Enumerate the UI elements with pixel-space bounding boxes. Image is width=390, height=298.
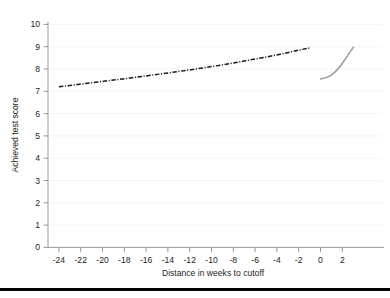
x-tick-label: 0 [318,255,323,265]
x-axis-tick-labels: -24 -22 -20 -18 -16 -14 -12 -10 -8 -6 -4… [53,255,345,265]
y-tick-label: 3 [35,176,40,186]
x-axis-ticks [59,247,342,252]
x-tick-label: -24 [53,255,66,265]
y-axis-title: Achieved test score [10,97,20,172]
x-tick-label: -12 [183,255,196,265]
y-tick-label: 10 [30,19,40,29]
y-tick-label: 7 [35,86,40,96]
x-tick-label: -10 [205,255,218,265]
x-tick-label: -16 [140,255,153,265]
x-tick-label: -4 [273,255,281,265]
x-tick-label: -18 [118,255,131,265]
series-right-of-cutoff-fit [321,47,354,79]
y-tick-label: 9 [35,42,40,52]
x-axis-title: Distance in weeks to cutoff [162,268,265,278]
y-tick-label: 1 [35,220,40,230]
x-tick-label: -2 [295,255,303,265]
x-tick-label: -6 [251,255,259,265]
y-tick-label: 6 [35,109,40,119]
y-tick-label: 8 [35,64,40,74]
y-tick-label: 2 [35,198,40,208]
series-left-of-cutoff-fit [59,48,310,87]
x-tick-label: -20 [96,255,109,265]
x-tick-label: -14 [162,255,175,265]
page-footer-rule [0,288,390,291]
x-tick-label: -22 [74,255,87,265]
y-tick-label: 0 [35,242,40,252]
axis-lines [48,22,384,247]
y-axis-tick-labels: 10 9 8 7 6 5 4 3 2 1 0 [30,19,40,252]
x-tick-label: 2 [340,255,345,265]
y-tick-label: 4 [35,153,40,163]
y-tick-label: 5 [35,131,40,141]
chart-figure: 10 9 8 7 6 5 4 3 2 1 0 [0,0,390,298]
plot-series [59,47,354,87]
x-tick-label: -8 [229,255,237,265]
gridlines [48,24,382,225]
chart-canvas: 10 9 8 7 6 5 4 3 2 1 0 [0,0,390,298]
y-axis-ticks [44,24,49,247]
